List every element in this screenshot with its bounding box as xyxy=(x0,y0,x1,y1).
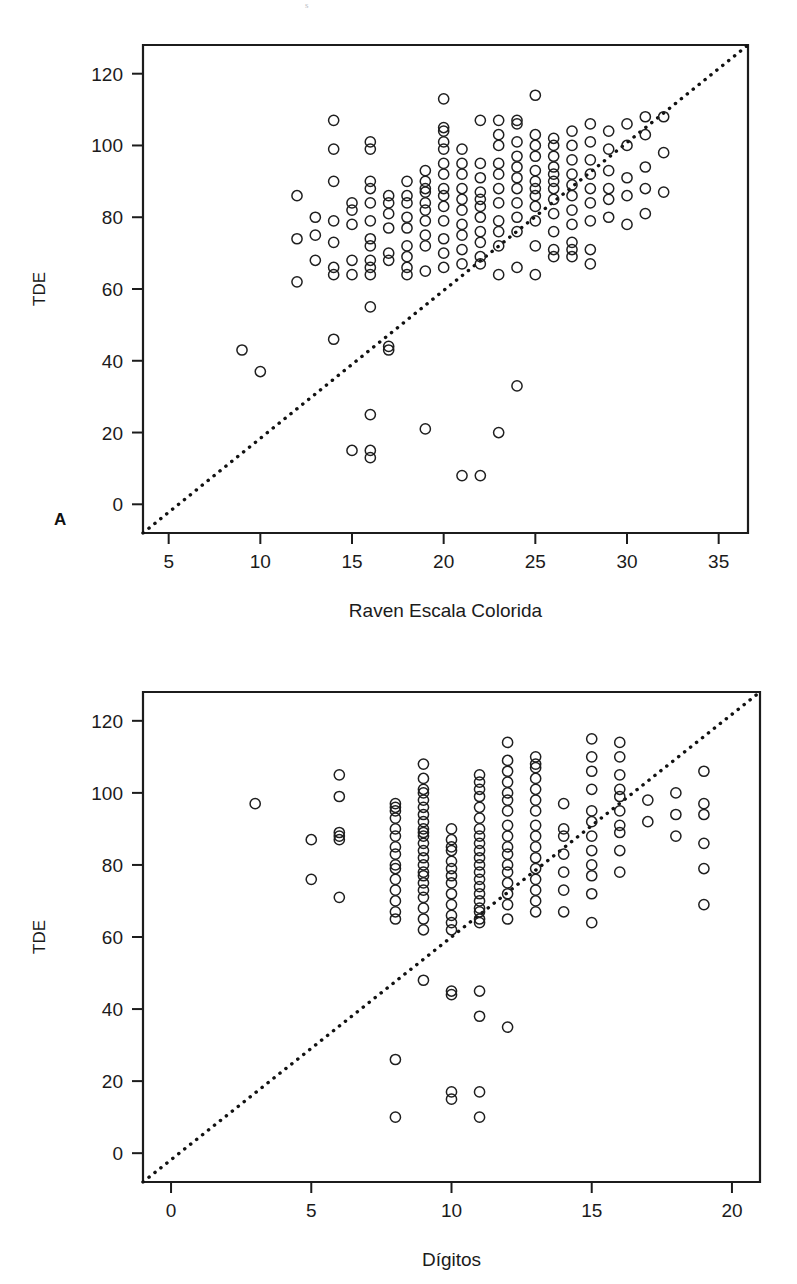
data-point xyxy=(567,126,577,136)
data-point xyxy=(334,770,344,780)
panel-a-letter: A xyxy=(54,510,67,530)
data-point xyxy=(512,262,522,272)
data-point xyxy=(446,910,456,920)
data-point xyxy=(347,219,357,229)
data-point xyxy=(530,270,540,280)
data-point xyxy=(671,788,681,798)
data-point xyxy=(365,409,375,419)
y-axis-title: TDE xyxy=(30,272,49,306)
data-point xyxy=(494,216,504,226)
data-point xyxy=(622,219,632,229)
data-point xyxy=(587,806,597,816)
data-point xyxy=(502,788,512,798)
x-tick-label: 5 xyxy=(306,1200,317,1221)
data-point xyxy=(457,144,467,154)
data-point xyxy=(402,252,412,262)
data-point xyxy=(559,867,569,877)
data-point xyxy=(390,1054,400,1064)
data-point xyxy=(420,266,430,276)
data-point xyxy=(329,144,339,154)
data-point xyxy=(474,770,484,780)
data-point xyxy=(585,244,595,254)
data-point xyxy=(615,752,625,762)
x-tick-label: 25 xyxy=(525,551,546,572)
data-point xyxy=(292,277,302,287)
data-point xyxy=(587,831,597,841)
data-point xyxy=(512,183,522,193)
data-point xyxy=(699,838,709,848)
data-point xyxy=(530,90,540,100)
data-point xyxy=(622,173,632,183)
panel-a-plot: 5101520253035020406080100120Raven Escala… xyxy=(0,0,797,640)
data-point xyxy=(643,795,653,805)
data-point xyxy=(502,777,512,787)
data-point xyxy=(310,230,320,240)
y-tick-label: 0 xyxy=(112,494,123,515)
data-point xyxy=(530,201,540,211)
x-tick-label: 20 xyxy=(721,1200,742,1221)
data-point xyxy=(439,94,449,104)
data-point xyxy=(585,137,595,147)
data-point xyxy=(530,130,540,140)
data-point xyxy=(439,262,449,272)
data-point xyxy=(699,809,709,819)
data-point xyxy=(567,219,577,229)
data-point xyxy=(329,262,339,272)
data-point xyxy=(347,198,357,208)
data-point xyxy=(306,835,316,845)
data-point xyxy=(439,158,449,168)
data-point xyxy=(475,158,485,168)
y-tick-label: 80 xyxy=(102,855,123,876)
data-point xyxy=(615,845,625,855)
data-point xyxy=(494,226,504,236)
data-point xyxy=(250,799,260,809)
data-point xyxy=(457,169,467,179)
data-point xyxy=(622,191,632,201)
data-point xyxy=(549,151,559,161)
data-point xyxy=(530,241,540,251)
data-point xyxy=(457,470,467,480)
data-point xyxy=(329,237,339,247)
data-point xyxy=(334,892,344,902)
data-point xyxy=(390,885,400,895)
data-point xyxy=(604,165,614,175)
data-point xyxy=(457,205,467,215)
data-point xyxy=(502,842,512,852)
data-point xyxy=(549,244,559,254)
data-point xyxy=(587,784,597,794)
data-point xyxy=(494,140,504,150)
data-point xyxy=(494,158,504,168)
data-point xyxy=(549,226,559,236)
data-point xyxy=(347,270,357,280)
data-point xyxy=(347,255,357,265)
data-point xyxy=(531,853,541,863)
data-point xyxy=(585,183,595,193)
data-point xyxy=(329,216,339,226)
data-point xyxy=(530,176,540,186)
data-point xyxy=(531,907,541,917)
data-point xyxy=(439,137,449,147)
data-point xyxy=(659,148,669,158)
data-point xyxy=(559,907,569,917)
data-point xyxy=(531,842,541,852)
x-tick-label: 0 xyxy=(166,1200,177,1221)
data-point xyxy=(671,809,681,819)
data-point xyxy=(475,173,485,183)
data-point xyxy=(622,119,632,129)
x-axis-title: Raven Escala Colorida xyxy=(349,600,543,621)
data-point xyxy=(512,151,522,161)
panel-a-scatter-raven: A 5101520253035020406080100120Raven Esca… xyxy=(0,0,797,640)
data-point xyxy=(418,903,428,913)
identity-reference-line xyxy=(143,45,748,533)
data-point xyxy=(699,766,709,776)
data-point xyxy=(671,831,681,841)
data-point xyxy=(418,925,428,935)
data-point xyxy=(390,1112,400,1122)
data-point xyxy=(420,216,430,226)
x-tick-label: 15 xyxy=(581,1200,602,1221)
data-point xyxy=(567,205,577,215)
y-tick-label: 60 xyxy=(102,279,123,300)
data-point xyxy=(402,241,412,251)
data-point xyxy=(559,824,569,834)
data-point xyxy=(475,212,485,222)
